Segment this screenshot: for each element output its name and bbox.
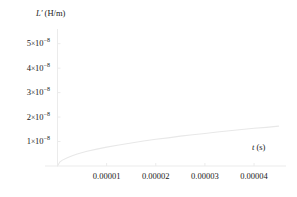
x-axis-unit: (s) xyxy=(256,142,265,152)
data-series-group xyxy=(58,126,279,166)
x-tick-label: 0.00001 xyxy=(84,172,130,181)
y-tick-exponent: −8 xyxy=(44,111,50,117)
y-tick-base: 10 xyxy=(35,136,44,146)
x-axis-variable: t xyxy=(252,142,254,152)
y-axis-title: L′(H/m) xyxy=(36,9,65,18)
y-tick-label: 3×10−8 xyxy=(8,88,50,97)
x-tick-label: 0.00004 xyxy=(231,172,277,181)
y-tick-base: 10 xyxy=(35,112,44,122)
axes-group xyxy=(45,29,286,166)
y-tick-base: 10 xyxy=(35,87,44,97)
x-tick-label: 0.00003 xyxy=(182,172,228,181)
y-axis-variable: L′ xyxy=(36,8,43,18)
y-tick-base: 10 xyxy=(35,63,44,73)
y-axis-unit: (H/m) xyxy=(45,8,66,18)
x-tick-label: 0.00002 xyxy=(133,172,179,181)
plot-canvas xyxy=(0,0,297,197)
y-tick-base: 10 xyxy=(35,38,44,48)
y-tick-label: 1×10−8 xyxy=(8,137,50,146)
chart-figure: L′(H/m) t(s) 1×10−82×10−83×10−84×10−85×1… xyxy=(0,0,297,197)
y-tick-exponent: −8 xyxy=(44,135,50,141)
y-tick-exponent: −8 xyxy=(44,37,50,43)
x-axis-title: t(s) xyxy=(252,143,265,152)
y-tick-label: 4×10−8 xyxy=(8,64,50,73)
y-tick-exponent: −8 xyxy=(44,62,50,68)
y-tick-label: 2×10−8 xyxy=(8,113,50,122)
y-tick-label: 5×10−8 xyxy=(8,39,50,48)
data-series-line xyxy=(58,126,279,166)
y-tick-exponent: −8 xyxy=(44,86,50,92)
